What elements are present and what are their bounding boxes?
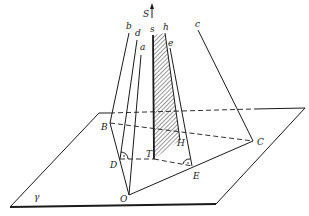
label-O: O xyxy=(120,194,128,204)
label-T: T xyxy=(146,149,153,159)
label-b: b xyxy=(126,21,132,31)
line-c xyxy=(198,30,253,141)
line-s xyxy=(153,35,154,159)
right-angle-mark-E xyxy=(183,159,190,164)
label-D: D xyxy=(109,160,117,170)
axis-s-arrow xyxy=(150,3,154,18)
geometry-figure: S b d a s h e c B C D T H E O γ xyxy=(0,0,309,216)
label-a: a xyxy=(140,42,145,52)
label-B: B xyxy=(100,122,108,132)
segment-BO xyxy=(110,123,129,195)
label-C: C xyxy=(257,137,264,147)
label-S: S xyxy=(143,9,149,19)
line-a xyxy=(129,55,141,195)
label-E: E xyxy=(192,171,200,181)
line-d xyxy=(120,40,137,159)
label-gamma: γ xyxy=(34,192,40,202)
hatched-plane xyxy=(153,33,180,159)
label-H: H xyxy=(176,138,185,148)
label-c: c xyxy=(195,19,200,29)
label-s: s xyxy=(150,24,155,34)
label-h: h xyxy=(163,22,169,32)
label-e: e xyxy=(168,38,173,48)
label-d: d xyxy=(135,28,141,38)
line-b xyxy=(110,33,129,123)
